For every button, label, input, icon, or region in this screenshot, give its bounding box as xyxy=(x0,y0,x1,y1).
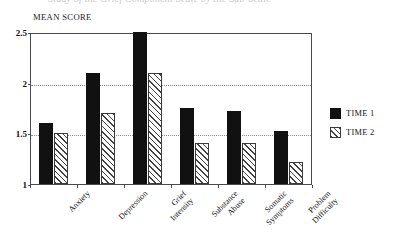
legend-item: TIME 2 xyxy=(330,123,394,142)
figure-caption-text: Study of the Grief Component Scale by th… xyxy=(48,0,271,4)
x-axis-label: ProblemDifficulty xyxy=(304,189,340,225)
bar-time2 xyxy=(54,133,68,184)
x-axis-label: SomaticSymptoms xyxy=(257,189,295,227)
bar-time1 xyxy=(227,111,241,184)
bar-time1 xyxy=(180,108,194,184)
x-axis-label: Depression xyxy=(117,189,150,222)
bar-time1 xyxy=(274,131,288,184)
x-axis-label: Anxiety xyxy=(67,189,92,214)
legend-swatch-time1 xyxy=(330,108,341,119)
bar-group xyxy=(266,34,313,184)
y-axis-title: MEAN SCORE xyxy=(33,12,92,22)
bar-group xyxy=(78,34,125,184)
bar-time2 xyxy=(289,162,303,184)
bar-time2 xyxy=(101,113,115,184)
bar-time2 xyxy=(242,143,256,184)
bar-time1 xyxy=(39,123,53,184)
x-tick-mark xyxy=(312,185,313,188)
x-tick-mark xyxy=(171,185,172,188)
bar-group xyxy=(172,34,219,184)
bar-group xyxy=(219,34,266,184)
x-tick-mark xyxy=(30,185,31,188)
x-axis-label: SubstanceAbuse xyxy=(210,189,247,226)
bar-time1 xyxy=(86,73,100,184)
bar-time2 xyxy=(195,143,209,184)
legend-label: TIME 1 xyxy=(346,109,375,118)
x-tick-mark xyxy=(218,185,219,188)
legend-label: TIME 2 xyxy=(346,128,375,137)
bar-group xyxy=(31,34,78,184)
bar-group xyxy=(125,34,172,184)
x-tick-mark xyxy=(124,185,125,188)
x-axis-label-line: Anxiety xyxy=(67,189,92,214)
x-axis-label: GriefIntensity xyxy=(162,189,196,223)
x-axis-label-line: Depression xyxy=(117,189,150,222)
x-tick-mark xyxy=(265,185,266,188)
legend-item: TIME 1 xyxy=(330,104,394,123)
legend-swatch-time2 xyxy=(330,127,341,138)
figure-caption-strip: Study of the Grief Component Scale by th… xyxy=(0,0,397,9)
x-tick-mark xyxy=(77,185,78,188)
chart-legend: TIME 1TIME 2 xyxy=(330,104,394,142)
bar-time1 xyxy=(133,32,147,184)
plot-area xyxy=(30,33,312,185)
bar-time2 xyxy=(148,73,162,184)
y-axis-tick-marks xyxy=(0,33,34,185)
